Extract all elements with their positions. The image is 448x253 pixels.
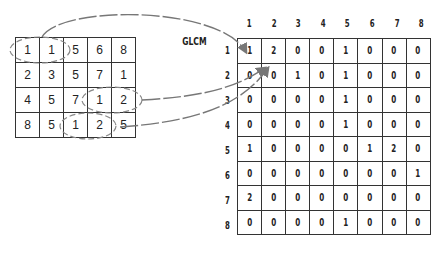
glcm-cell: 0 bbox=[286, 210, 310, 235]
image-cell: 1 bbox=[88, 88, 112, 113]
glcm-cell: 0 bbox=[262, 186, 286, 211]
image-cell: 5 bbox=[112, 113, 136, 138]
glcm-cell: 0 bbox=[382, 186, 406, 211]
glcm-cell: 0 bbox=[406, 88, 430, 113]
glcm-cell: 0 bbox=[262, 210, 286, 235]
glcm-cell: 0 bbox=[382, 63, 406, 88]
glcm-cell: 0 bbox=[286, 186, 310, 211]
image-cell: 7 bbox=[64, 88, 88, 113]
glcm-cell: 0 bbox=[286, 161, 310, 186]
glcm-col-label: 7 bbox=[388, 18, 405, 29]
glcm-cell: 0 bbox=[406, 63, 430, 88]
glcm-cell: 0 bbox=[286, 112, 310, 137]
glcm-row: 00101000 bbox=[238, 63, 431, 88]
glcm-cell: 0 bbox=[262, 88, 286, 113]
glcm-cell: 0 bbox=[310, 161, 334, 186]
glcm-cell: 0 bbox=[334, 137, 358, 162]
glcm-matrix: 1200100000101000000010000000100010000120… bbox=[237, 38, 431, 235]
glcm-row: 00001000 bbox=[238, 210, 431, 235]
glcm-cell: 1 bbox=[286, 63, 310, 88]
image-cell: 3 bbox=[40, 63, 64, 88]
glcm-cell: 0 bbox=[358, 88, 382, 113]
glcm-cell: 0 bbox=[406, 112, 430, 137]
glcm-cell: 1 bbox=[334, 112, 358, 137]
glcm-col-label: 1 bbox=[241, 18, 258, 29]
glcm-cell: 0 bbox=[310, 112, 334, 137]
glcm-cell: 0 bbox=[310, 210, 334, 235]
image-cell: 1 bbox=[64, 113, 88, 138]
glcm-row-label: 7 bbox=[225, 188, 230, 213]
image-matrix-row: 23571 bbox=[16, 63, 136, 88]
image-cell: 5 bbox=[40, 88, 64, 113]
glcm-cell: 0 bbox=[382, 161, 406, 186]
image-cell: 5 bbox=[40, 113, 64, 138]
glcm-cell: 1 bbox=[334, 63, 358, 88]
glcm-cell: 0 bbox=[238, 210, 262, 235]
image-cell: 2 bbox=[88, 113, 112, 138]
glcm-row: 12001000 bbox=[238, 39, 431, 64]
glcm-cell: 0 bbox=[358, 112, 382, 137]
image-cell: 1 bbox=[40, 38, 64, 63]
glcm-cell: 0 bbox=[286, 137, 310, 162]
image-cell: 7 bbox=[88, 63, 112, 88]
glcm-cell: 0 bbox=[406, 210, 430, 235]
glcm-cell: 1 bbox=[334, 210, 358, 235]
glcm-cell: 0 bbox=[406, 186, 430, 211]
glcm-cell: 0 bbox=[262, 112, 286, 137]
image-cell: 5 bbox=[64, 63, 88, 88]
glcm-cell: 0 bbox=[358, 186, 382, 211]
glcm-col-label: 6 bbox=[364, 18, 381, 29]
glcm-cell: 0 bbox=[286, 39, 310, 64]
image-cell: 6 bbox=[88, 38, 112, 63]
glcm-row-labels: 12345678 bbox=[224, 38, 231, 238]
glcm-cell: 0 bbox=[358, 63, 382, 88]
glcm-col-label: 2 bbox=[265, 18, 282, 29]
image-cell: 1 bbox=[112, 63, 136, 88]
glcm-cell: 2 bbox=[262, 39, 286, 64]
image-matrix: 11568235714571285125 bbox=[15, 37, 136, 138]
glcm-cell: 0 bbox=[262, 161, 286, 186]
glcm-title: GLCM bbox=[182, 36, 206, 47]
glcm-cell: 0 bbox=[334, 186, 358, 211]
image-matrix-row: 85125 bbox=[16, 113, 136, 138]
image-cell: 4 bbox=[16, 88, 40, 113]
glcm-col-label: 5 bbox=[339, 18, 356, 29]
glcm-cell: 0 bbox=[406, 137, 430, 162]
image-cell: 1 bbox=[16, 38, 40, 63]
image-cell: 5 bbox=[64, 38, 88, 63]
glcm-cell: 0 bbox=[310, 137, 334, 162]
image-matrix-row: 45712 bbox=[16, 88, 136, 113]
glcm-cell: 2 bbox=[238, 186, 262, 211]
glcm-col-label: 3 bbox=[290, 18, 307, 29]
glcm-col-label: 4 bbox=[314, 18, 331, 29]
glcm-cell: 1 bbox=[238, 137, 262, 162]
glcm-cell: 0 bbox=[382, 112, 406, 137]
glcm-row: 10000120 bbox=[238, 137, 431, 162]
glcm-row-label: 4 bbox=[225, 113, 230, 138]
glcm-row-label: 8 bbox=[225, 213, 230, 238]
glcm-row: 00001000 bbox=[238, 112, 431, 137]
glcm-column-labels: 12345678 bbox=[237, 18, 434, 29]
glcm-cell: 0 bbox=[238, 112, 262, 137]
glcm-cell: 0 bbox=[310, 186, 334, 211]
glcm-cell: 1 bbox=[334, 39, 358, 64]
glcm-cell: 0 bbox=[310, 39, 334, 64]
image-cell: 2 bbox=[112, 88, 136, 113]
glcm-col-label: 8 bbox=[413, 18, 430, 29]
glcm-cell: 1 bbox=[406, 161, 430, 186]
glcm-cell: 0 bbox=[382, 39, 406, 64]
glcm-cell: 0 bbox=[358, 161, 382, 186]
glcm-cell: 0 bbox=[406, 39, 430, 64]
image-cell: 8 bbox=[16, 113, 40, 138]
glcm-row-label: 6 bbox=[225, 163, 230, 188]
glcm-cell: 0 bbox=[382, 88, 406, 113]
glcm-cell: 0 bbox=[334, 161, 358, 186]
glcm-row: 00000001 bbox=[238, 161, 431, 186]
glcm-cell: 0 bbox=[262, 137, 286, 162]
glcm-row-label: 2 bbox=[225, 63, 230, 88]
glcm-cell: 0 bbox=[358, 39, 382, 64]
glcm-row: 00001000 bbox=[238, 88, 431, 113]
glcm-row: 20000000 bbox=[238, 186, 431, 211]
glcm-cell: 0 bbox=[238, 63, 262, 88]
image-cell: 8 bbox=[112, 38, 136, 63]
